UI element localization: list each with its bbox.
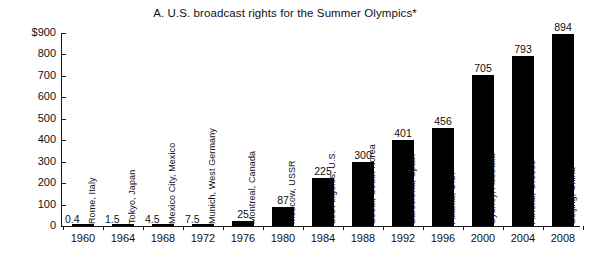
x-axis-tick-label: 1980 (261, 232, 305, 244)
x-axis-tick-label: 1996 (421, 232, 465, 244)
x-axis-tick (343, 226, 344, 230)
x-axis-tick (103, 226, 104, 230)
y-axis-tick-label: $900 (4, 26, 56, 38)
x-axis-tick-label: 1968 (141, 232, 185, 244)
chart-title: A. U.S. broadcast rights for the Summer … (0, 7, 590, 19)
bar-group: 7.5Munich, West Germany (183, 33, 223, 226)
y-axis-tick-label: 400 (4, 133, 56, 145)
x-axis-tick-label: 1984 (301, 232, 345, 244)
x-axis-tick (223, 226, 224, 230)
bar-value-label: 894 (543, 21, 583, 33)
x-axis-tick-label: 1960 (61, 232, 105, 244)
bar-annotation: Beijing, China (567, 167, 577, 224)
y-axis-tick-label: 100 (4, 198, 56, 210)
bar-value-label: 705 (463, 62, 503, 74)
bar-group: 4.5Mexico City, Mexico (143, 33, 183, 226)
x-axis-tick (543, 226, 544, 230)
bar-annotation: Mexico City, Mexico (167, 143, 177, 224)
bar-annotation: Tokyo, Japan (127, 170, 137, 224)
bar-group: 87Moscow, USSR (263, 33, 303, 226)
x-axis-tick-label: 1988 (341, 232, 385, 244)
x-axis-tick-label: 2004 (501, 232, 545, 244)
bar-annotation: Los Angeles, U.S. (327, 151, 337, 224)
bar-annotation: Seoul, South Korea (367, 144, 377, 224)
bar-group: 25Montreal, Canada (223, 33, 263, 226)
x-axis-tick (143, 226, 144, 230)
y-axis-tick-label: 600 (4, 90, 56, 102)
bar-value-label: 25 (223, 208, 263, 220)
x-axis-tick (63, 226, 64, 230)
y-axis-tick-label: 200 (4, 176, 56, 188)
x-axis-tick (463, 226, 464, 230)
bar-annotation: Rome, Italy (87, 177, 97, 224)
bar-value-label: 793 (503, 43, 543, 55)
x-axis-tick-label: 1992 (381, 232, 425, 244)
bar-value-label: 401 (383, 127, 423, 139)
bar-annotation: Atlanta, U.S. (447, 172, 457, 224)
bar-group: 705Sydney, Australia (463, 33, 503, 226)
x-axis-tick (503, 226, 504, 230)
x-axis-tick (183, 226, 184, 230)
bar-group: 894Beijing, China (543, 33, 583, 226)
bar-group: 401Barcelona, Spain (383, 33, 423, 226)
bar-annotation: Munich, West Germany (207, 128, 217, 224)
bar-annotation: Athens, Greece (527, 160, 537, 224)
bar-group: 225Los Angeles, U.S. (303, 33, 343, 226)
x-axis-tick (583, 226, 584, 230)
x-axis-tick (423, 226, 424, 230)
y-axis-labels: $9008007006005004003002001000 (0, 0, 56, 259)
bar-chart: A. U.S. broadcast rights for the Summer … (0, 0, 610, 259)
bar-group: 1.5Tokyo, Japan (103, 33, 143, 226)
x-axis-tick (303, 226, 304, 230)
y-axis-tick-label: 800 (4, 47, 56, 59)
y-axis-tick-label: 700 (4, 69, 56, 81)
x-axis-tick-label: 1976 (221, 232, 265, 244)
bar-value-label: 225 (303, 165, 343, 177)
y-axis-tick-label: 0 (4, 219, 56, 231)
y-axis-tick-label: 300 (4, 155, 56, 167)
x-axis-tick (263, 226, 264, 230)
bar-annotation: Barcelona, Spain (407, 154, 417, 224)
y-axis-tick-label: 500 (4, 112, 56, 124)
x-axis-tick-label: 2000 (461, 232, 505, 244)
bar-group: 0.4Rome, Italy (63, 33, 103, 226)
x-axis-tick-label: 1972 (181, 232, 225, 244)
bar-annotation: Moscow, USSR (287, 160, 297, 224)
bar-annotation: Montreal, Canada (247, 151, 257, 224)
x-axis-tick (383, 226, 384, 230)
x-axis-tick-label: 2008 (541, 232, 585, 244)
bar-annotation: Sydney, Australia (487, 153, 497, 224)
bar-group: 300Seoul, South Korea (343, 33, 383, 226)
bar-group: 793Athens, Greece (503, 33, 543, 226)
bar-value-label: 300 (343, 149, 383, 161)
bar-value-label: 87 (263, 194, 303, 206)
x-axis-tick-label: 1964 (101, 232, 145, 244)
bar-group: 456Atlanta, U.S. (423, 33, 463, 226)
bar-value-label: 456 (423, 115, 463, 127)
